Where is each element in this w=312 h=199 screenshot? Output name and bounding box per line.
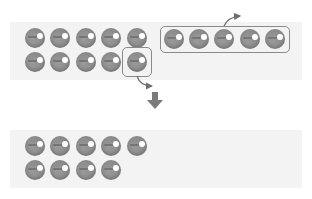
curved-arrow-icon <box>137 76 152 86</box>
curved-arrow-icon <box>224 16 240 26</box>
down-arrow-icon <box>147 92 163 109</box>
arrows-layer <box>0 0 312 199</box>
